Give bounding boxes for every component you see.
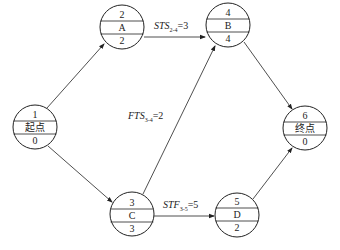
label-fts-value: =2 <box>153 110 164 121</box>
node-b-number: 4 <box>226 7 231 18</box>
edge-b-end <box>244 42 292 109</box>
node-c-number: 3 <box>130 197 135 208</box>
node-start-duration: 0 <box>33 135 38 146</box>
label-fts-c-b: FTS3-4=2 <box>128 110 163 123</box>
node-d: 5 D 2 <box>215 193 259 237</box>
label-stf-value: =5 <box>188 199 199 210</box>
label-sts-value: =3 <box>178 20 189 31</box>
label-fts-name: FTS <box>128 110 145 121</box>
node-end-number: 6 <box>303 110 308 121</box>
node-c: 3 C 3 <box>110 192 154 236</box>
node-start-number: 1 <box>33 109 38 120</box>
node-a: 2 A 2 <box>100 5 144 49</box>
node-b: 4 B 4 <box>206 3 250 47</box>
edge-start-c <box>48 146 112 202</box>
node-a-duration: 2 <box>120 35 125 46</box>
label-sts-a-b: STS2-4=3 <box>154 20 188 33</box>
node-end-name: 终点 <box>295 122 315 134</box>
node-b-duration: 4 <box>226 33 231 44</box>
edge-start-a <box>47 44 104 108</box>
label-stf-sub: 3-5 <box>180 206 188 212</box>
label-sts-sub: 2-4 <box>170 27 178 33</box>
node-c-duration: 3 <box>130 223 135 234</box>
node-a-number: 2 <box>120 9 125 20</box>
node-c-name: C <box>129 210 136 221</box>
node-b-name: B <box>225 20 232 31</box>
node-a-name: A <box>118 22 126 33</box>
label-fts-sub: 3-4 <box>145 117 153 123</box>
node-end-duration: 0 <box>303 136 308 147</box>
edge-d-end <box>253 148 292 199</box>
node-d-number: 5 <box>235 196 240 207</box>
node-end: 6 终点 0 <box>283 106 327 150</box>
label-sts-name: STS <box>154 20 170 31</box>
network-diagram: 1 起点 0 2 A 2 4 B 4 3 C 3 5 D 2 <box>0 0 340 250</box>
label-stf-c-d: STF3-5=5 <box>163 199 198 212</box>
label-stf-name: STF <box>163 199 180 210</box>
node-start-name: 起点 <box>25 122 45 133</box>
node-start: 1 起点 0 <box>13 105 57 149</box>
node-d-duration: 2 <box>235 222 240 233</box>
node-d-name: D <box>233 209 240 220</box>
